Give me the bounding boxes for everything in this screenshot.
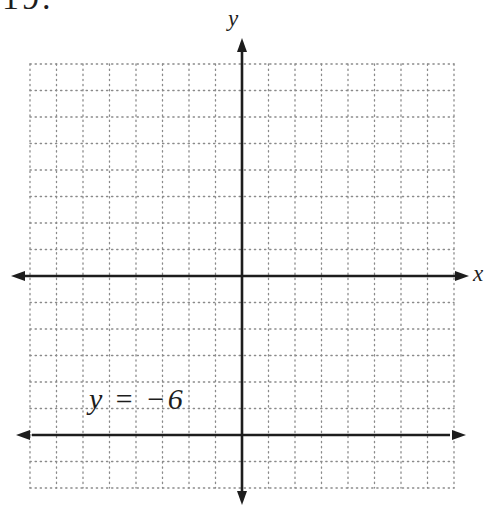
figure-svg	[0, 0, 495, 519]
textbook-figure: 19. y x y = −6	[0, 0, 495, 519]
y-axis-label: y	[228, 6, 238, 32]
line-equation-label: y = −6	[89, 382, 185, 416]
x-axis	[11, 271, 469, 281]
x-axis-label: x	[473, 261, 483, 287]
exercise-number: 19.	[2, 0, 54, 17]
